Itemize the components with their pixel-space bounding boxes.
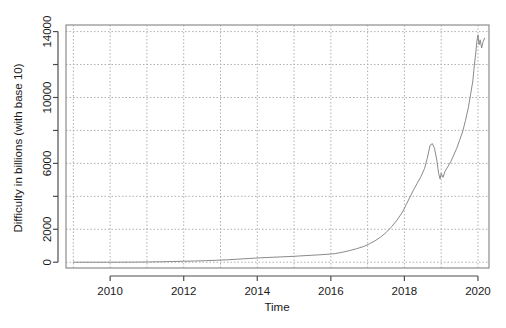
x-axis-tick-labels: 201020122014201620182020	[97, 285, 490, 297]
grid-lines	[66, 25, 489, 268]
y-axis-tick-labels: 0200060001000014000	[41, 16, 53, 266]
series-line-difficulty	[73, 35, 484, 262]
y-axis-tick-label: 14000	[41, 16, 53, 48]
x-axis-tick-label: 2016	[318, 285, 344, 297]
x-axis-ticks	[110, 276, 478, 281]
y-axis-tick-label: 0	[41, 259, 53, 265]
y-axis-tick-label: 6000	[41, 151, 53, 177]
y-axis-ticks	[53, 32, 58, 263]
x-axis-tick-label: 2018	[392, 285, 418, 297]
chart-root: 201020122014201620182020 020006000100001…	[0, 0, 506, 328]
x-axis-tick-label: 2012	[171, 285, 197, 297]
x-axis-tick-label: 2010	[97, 285, 123, 297]
plot-frame	[58, 25, 489, 276]
y-axis-tick-label: 10000	[41, 81, 53, 113]
x-axis-title: Time	[264, 301, 289, 313]
y-axis-title: Difficulty in billions (with base 10)	[12, 63, 24, 232]
difficulty-line-chart: 201020122014201620182020 020006000100001…	[0, 0, 506, 328]
data-series-difficulty	[73, 35, 484, 262]
y-axis-tick-label: 2000	[41, 216, 53, 242]
x-axis-tick-label: 2020	[465, 285, 491, 297]
x-axis-tick-label: 2014	[244, 285, 270, 297]
plot-area-border	[66, 25, 489, 268]
